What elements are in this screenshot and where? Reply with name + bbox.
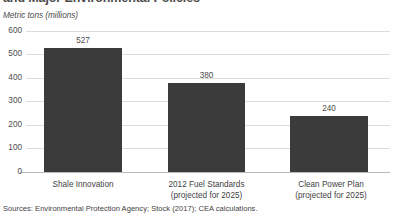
bar-shale-innovation[interactable]: [44, 48, 122, 172]
x-axis-label-line1: Shale Innovation: [53, 180, 114, 189]
x-axis-label-clean-power-plan: Clean Power Plan (projected for 2025): [273, 180, 389, 201]
x-axis-label-shale-innovation: Shale Innovation: [25, 180, 141, 191]
y-axis-tick-300: 300: [0, 97, 22, 105]
x-axis-label-line1: Clean Power Plan: [298, 180, 364, 189]
x-axis-label-line1: 2012 Fuel Standards: [168, 180, 244, 189]
y-axis-tick-600: 600: [0, 27, 22, 35]
chart-figure: and Major Environmental Policies Metric …: [0, 0, 394, 217]
y-axis-tick-400: 400: [0, 74, 22, 82]
x-axis-label-2012-fuel-standards: 2012 Fuel Standards (projected for 2025): [150, 180, 263, 201]
x-axis-label-line2: (projected for 2025): [150, 191, 263, 202]
x-axis-label-line2: (projected for 2025): [273, 191, 389, 202]
gridline-600: [26, 31, 390, 32]
y-axis-tick-100: 100: [0, 144, 22, 152]
y-axis-tick-500: 500: [0, 50, 22, 58]
source-note: Sources: Environmental Protection Agency…: [3, 204, 258, 213]
bar-value-label-2012-fuel-standards: 380: [168, 71, 245, 80]
bar-value-label-shale-innovation: 527: [44, 36, 122, 45]
y-axis-tick-0: 0: [0, 168, 22, 176]
bar-value-label-clean-power-plan: 240: [290, 104, 368, 113]
axis-baseline: [20, 172, 390, 173]
bar-2012-fuel-standards[interactable]: [168, 83, 245, 172]
bar-clean-power-plan[interactable]: [290, 116, 368, 172]
y-axis-tick-200: 200: [0, 121, 22, 129]
plot-area: 600 500 400 300 200 100 0 527 380 240 Sh…: [0, 0, 394, 217]
